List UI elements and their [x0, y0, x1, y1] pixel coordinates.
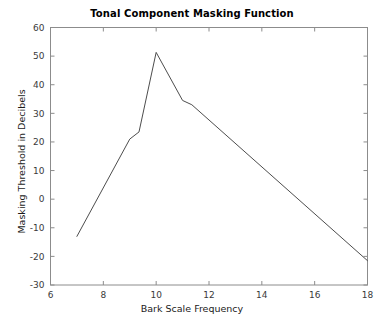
x-tick-label: 6	[48, 290, 54, 300]
x-axis-label: Bark Scale Frequency	[0, 303, 384, 314]
y-tick-label: 60	[33, 23, 45, 33]
x-tick-label: 16	[309, 290, 321, 300]
x-tick-label: 8	[100, 290, 106, 300]
x-tick-label: 10	[150, 290, 162, 300]
x-tick-label: 12	[203, 290, 214, 300]
y-axis-tick-labels: -30-20-100102030405060	[30, 23, 45, 291]
y-tick-label: 10	[33, 166, 45, 176]
x-tick-label: 14	[256, 290, 268, 300]
plot-frame	[51, 28, 368, 286]
x-axis-tick-labels: 681012141618	[48, 290, 374, 300]
y-tick-label: 50	[33, 51, 45, 61]
y-tick-label: 20	[33, 137, 45, 147]
y-tick-label: 30	[33, 109, 45, 119]
y-axis-label: Masking Threshold in Decibels	[16, 32, 27, 292]
y-tick-label: -10	[30, 223, 45, 233]
x-tick-label: 18	[362, 290, 374, 300]
y-tick-label: 40	[33, 80, 45, 90]
y-tick-label: -30	[30, 280, 45, 290]
plot-area: 681012141618 -30-20-100102030405060	[0, 0, 384, 330]
chart-figure: Tonal Component Masking Function 6810121…	[0, 0, 384, 330]
x-axis-ticks	[51, 28, 368, 286]
y-tick-label: 0	[39, 194, 45, 204]
y-tick-label: -20	[30, 252, 45, 262]
data-series-line	[77, 52, 368, 260]
y-axis-ticks	[51, 28, 368, 286]
